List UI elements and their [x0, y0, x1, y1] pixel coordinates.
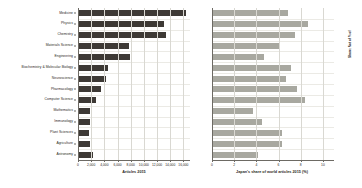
category-label-row: Engineering — [0, 51, 76, 62]
bar-row — [78, 84, 190, 95]
bar-row — [212, 19, 334, 30]
category-label: Neuroscience — [52, 77, 76, 81]
bar — [213, 10, 288, 16]
bar-row — [212, 138, 334, 149]
category-tick-mark — [74, 78, 76, 79]
category-label-row: Biochemistry & Molecular Biology — [0, 62, 76, 73]
x-tick-mark — [170, 160, 171, 162]
bar — [213, 130, 282, 136]
bar-row — [212, 149, 334, 160]
x-tick-label: 0 — [77, 163, 79, 167]
bar-row — [78, 41, 190, 52]
bar-row — [78, 30, 190, 41]
bar — [79, 119, 90, 125]
bar — [213, 141, 282, 147]
bar — [213, 86, 297, 92]
bar-row — [212, 51, 334, 62]
bar-row — [78, 51, 190, 62]
category-label: Biochemistry & Molecular Biology — [22, 66, 76, 70]
category-label-row: Mathematics — [0, 106, 76, 117]
category-tick-mark — [74, 35, 76, 36]
category-label: Engineering — [55, 55, 76, 59]
bar-row — [212, 95, 334, 106]
x-tick-mark — [131, 160, 132, 162]
right-vertical-axis-title: Share: Not of % of — [348, 30, 352, 58]
x-tick-label: 10 — [321, 163, 325, 167]
category-tick-mark — [74, 154, 76, 155]
category-label-row: Agriculture — [0, 138, 76, 149]
category-tick-mark — [74, 46, 76, 47]
gridline — [256, 8, 257, 160]
bar-row — [78, 8, 190, 19]
x-tick-label: 0 — [211, 163, 213, 167]
bar — [79, 141, 90, 147]
bar-row — [212, 127, 334, 138]
x-tick-label: 14,000 — [165, 163, 175, 167]
gridline — [323, 8, 324, 160]
bar-row — [212, 84, 334, 95]
category-label-row: Materials Science — [0, 41, 76, 52]
x-tick-label: 12,000 — [152, 163, 162, 167]
right-plot-area — [212, 8, 334, 160]
x-tick-mark — [78, 160, 79, 162]
bar-row — [212, 106, 334, 117]
category-label: Pharmacology — [51, 88, 76, 92]
x-tick-label: 8 — [300, 163, 302, 167]
bar — [79, 76, 106, 82]
x-tick-label: 6,000 — [113, 163, 121, 167]
gridline — [234, 8, 235, 160]
bar-row — [78, 149, 190, 160]
bar-row — [212, 8, 334, 19]
category-label-row: Pharmacology — [0, 84, 76, 95]
category-tick-mark — [74, 13, 76, 14]
bar-row — [212, 62, 334, 73]
category-tick-mark — [74, 56, 76, 57]
category-tick-mark — [74, 89, 76, 90]
gridline — [157, 8, 158, 160]
left-plot-area — [78, 8, 190, 160]
category-label-row: Medicine — [0, 8, 76, 19]
category-label-row: Physics — [0, 19, 76, 30]
left-x-axis-title: Articles 2015 — [78, 170, 190, 174]
x-tick-mark — [183, 160, 184, 162]
category-tick-mark — [74, 132, 76, 133]
category-label-row: Astronomy — [0, 149, 76, 160]
gridline — [183, 8, 184, 160]
bar-row — [78, 138, 190, 149]
x-tick-label: 4 — [255, 163, 257, 167]
category-label: Immunology — [54, 120, 76, 124]
bar — [213, 21, 308, 27]
gridline — [279, 8, 280, 160]
category-tick-mark — [74, 100, 76, 101]
x-tick-label: 8,000 — [127, 163, 135, 167]
category-label-row: Chemistry — [0, 30, 76, 41]
bar-row — [78, 127, 190, 138]
bar — [213, 108, 253, 114]
category-label: Mathematics — [53, 109, 76, 113]
left-x-axis: 02,0004,0006,0008,00010,00012,00014,0001… — [78, 160, 190, 161]
category-tick-mark — [74, 111, 76, 112]
bar — [79, 130, 89, 136]
right-x-axis: 0246810 — [212, 160, 334, 161]
x-tick-mark — [157, 160, 158, 162]
left-bar-rows — [78, 8, 190, 160]
x-tick-mark — [91, 160, 92, 162]
x-tick-label: 2 — [233, 163, 235, 167]
x-tick-mark — [279, 160, 280, 162]
bar — [213, 119, 262, 125]
bar — [213, 97, 305, 103]
bar — [79, 86, 101, 92]
x-tick-label: 16,000 — [178, 163, 188, 167]
gridline — [131, 8, 132, 160]
bar-row — [78, 62, 190, 73]
x-tick-label: 10,000 — [139, 163, 149, 167]
bar — [79, 97, 96, 103]
category-label-row: Immunology — [0, 117, 76, 128]
x-tick-label: 4,000 — [100, 163, 108, 167]
gridline — [301, 8, 302, 160]
category-label: Materials Science — [46, 44, 76, 48]
bar-row — [212, 30, 334, 41]
category-label-row: Computer Science — [0, 95, 76, 106]
bar-row — [78, 73, 190, 84]
bar — [79, 108, 90, 114]
